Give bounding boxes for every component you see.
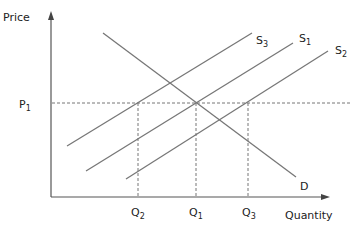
supply-label-s2: S2 bbox=[335, 44, 347, 59]
supply-label-s1: S1 bbox=[299, 32, 311, 47]
y-axis bbox=[48, 11, 54, 197]
supply-label-s3: S3 bbox=[256, 34, 268, 49]
x-axis bbox=[51, 194, 330, 200]
x-axis-arrow-icon bbox=[321, 194, 330, 200]
quantity-label-q3: Q3 bbox=[242, 206, 256, 221]
supply-curve-s2 bbox=[126, 51, 328, 179]
supply-demand-diagram: Price Quantity P1 Q2 Q1 Q3 D S3 S1 S2 bbox=[0, 0, 361, 228]
x-axis-label: Quantity bbox=[285, 209, 333, 222]
quantity-label-q1: Q1 bbox=[189, 206, 203, 221]
y-axis-label: Price bbox=[3, 11, 30, 24]
supply-curve-s3 bbox=[67, 33, 252, 146]
demand-curve bbox=[103, 33, 296, 177]
price-label-p1: P1 bbox=[19, 98, 31, 113]
demand-label: D bbox=[300, 180, 308, 193]
quantity-label-q2: Q2 bbox=[131, 206, 145, 221]
y-axis-arrow-icon bbox=[48, 11, 54, 20]
